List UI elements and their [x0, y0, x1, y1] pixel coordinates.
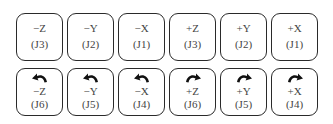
jog-minus-x-j1-button[interactable]: −X (J1) [118, 13, 165, 61]
joint-label: (J6) [17, 99, 62, 110]
jog-rot-plus-z-j6-button[interactable]: +Z (J6) [169, 68, 216, 116]
jog-minus-z-j3-button[interactable]: −Z (J3) [16, 13, 63, 61]
joint-label: (J4) [119, 99, 164, 110]
joint-label: (J4) [272, 99, 317, 110]
jog-rot-minus-y-j5-button[interactable]: −Y (J5) [67, 68, 114, 116]
rotate-ccw-icon [31, 72, 49, 84]
axis-label: −Z [17, 23, 62, 34]
rotate-ccw-icon [133, 72, 151, 84]
axis-label: +X [272, 86, 317, 97]
axis-label: −Z [17, 86, 62, 97]
translation-jog-row: −Z (J3) −Y (J2) −X (J1) +Z (J3) +Y (J2) … [16, 13, 318, 61]
axis-label: −Y [68, 86, 113, 97]
joint-label: (J2) [68, 39, 113, 50]
jog-plus-z-j3-button[interactable]: +Z (J3) [169, 13, 216, 61]
axis-label: +Z [170, 86, 215, 97]
rotate-cw-icon [286, 72, 304, 84]
joint-label: (J3) [170, 39, 215, 50]
rotate-ccw-icon [82, 72, 100, 84]
jog-rot-minus-x-j4-button[interactable]: −X (J4) [118, 68, 165, 116]
axis-label: −X [119, 86, 164, 97]
axis-label: −Y [68, 23, 113, 34]
joint-label: (J5) [68, 99, 113, 110]
jog-plus-y-j2-button[interactable]: +Y (J2) [220, 13, 267, 61]
jog-rot-plus-y-j5-button[interactable]: +Y (J5) [220, 68, 267, 116]
rotate-cw-icon [184, 72, 202, 84]
axis-label: −X [119, 23, 164, 34]
axis-label: +Y [221, 86, 266, 97]
joint-label: (J3) [17, 39, 62, 50]
rotation-jog-row: −Z (J6) −Y (J5) −X (J4) +Z (J6) +Y (J5) … [16, 68, 318, 116]
joint-label: (J2) [221, 39, 266, 50]
rotate-cw-icon [235, 72, 253, 84]
joint-label: (J1) [272, 39, 317, 50]
joint-label: (J1) [119, 39, 164, 50]
jog-minus-y-j2-button[interactable]: −Y (J2) [67, 13, 114, 61]
jog-rot-plus-x-j4-button[interactable]: +X (J4) [271, 68, 318, 116]
axis-label: +X [272, 23, 317, 34]
joint-label: (J5) [221, 99, 266, 110]
axis-label: +Y [221, 23, 266, 34]
jog-rot-minus-z-j6-button[interactable]: −Z (J6) [16, 68, 63, 116]
joint-label: (J6) [170, 99, 215, 110]
jog-plus-x-j1-button[interactable]: +X (J1) [271, 13, 318, 61]
axis-label: +Z [170, 23, 215, 34]
